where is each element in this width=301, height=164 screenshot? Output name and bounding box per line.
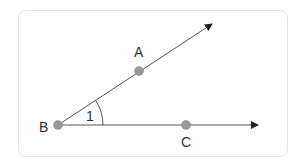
point-c <box>182 121 191 130</box>
point-b <box>54 121 63 130</box>
angle-arc <box>96 100 103 125</box>
angle-label: 1 <box>86 108 94 124</box>
label-a: A <box>134 44 144 60</box>
label-c: C <box>181 134 191 150</box>
point-a <box>135 67 144 76</box>
ray-ba <box>58 24 212 125</box>
angle-diagram: A B C 1 <box>0 0 301 164</box>
label-b: B <box>39 119 48 135</box>
